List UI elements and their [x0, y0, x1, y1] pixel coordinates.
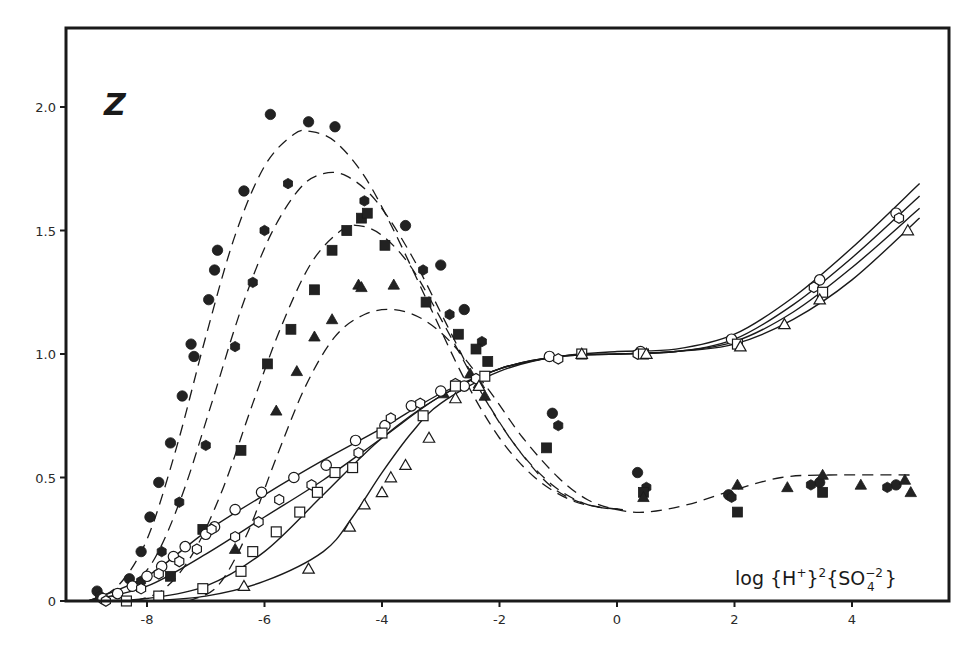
- marker-open-square: [480, 371, 490, 381]
- chart-canvas: -8-6-4-2024 00.51.01.52.0 Z log {H+}2{SO…: [0, 0, 975, 652]
- marker-filled-circle: [400, 220, 410, 230]
- marker-open-hexagon: [154, 569, 163, 579]
- x-tick-label: -6: [258, 612, 271, 627]
- marker-open-hexagon: [416, 398, 425, 408]
- marker-filled-square: [262, 359, 272, 369]
- marker-filled-square: [342, 226, 352, 236]
- x-tick-label: 2: [730, 612, 738, 627]
- marker-open-hexagon: [275, 495, 284, 505]
- marker-filled-square: [818, 487, 828, 497]
- marker-filled-hexagon: [201, 440, 210, 450]
- x-tick-label: 4: [848, 612, 856, 627]
- marker-filled-circle: [189, 351, 199, 361]
- marker-filled-hexagon: [445, 309, 454, 319]
- y-tick-label: 0.5: [35, 471, 56, 486]
- marker-open-square: [418, 411, 428, 421]
- marker-open-circle: [180, 541, 190, 551]
- marker-filled-square: [483, 356, 493, 366]
- marker-open-circle: [544, 351, 554, 361]
- marker-filled-hexagon: [248, 277, 257, 287]
- marker-filled-hexagon: [360, 196, 369, 206]
- marker-filled-hexagon: [231, 341, 240, 351]
- marker-filled-square: [380, 240, 390, 250]
- marker-filled-circle: [212, 245, 222, 255]
- marker-open-hexagon: [175, 556, 184, 566]
- marker-filled-circle: [239, 186, 249, 196]
- marker-filled-hexagon: [175, 497, 184, 507]
- marker-open-square: [312, 487, 322, 497]
- marker-filled-circle: [436, 260, 446, 270]
- marker-filled-circle: [145, 512, 155, 522]
- marker-filled-square: [732, 507, 742, 517]
- marker-open-hexagon: [386, 413, 395, 423]
- marker-open-hexagon: [137, 583, 146, 594]
- x-tick-label: -4: [376, 612, 389, 627]
- x-label-sup-plus: +: [796, 566, 806, 580]
- marker-open-square: [330, 468, 340, 478]
- marker-open-hexagon: [554, 354, 563, 364]
- marker-open-hexagon: [192, 544, 201, 554]
- marker-filled-square: [471, 344, 481, 354]
- marker-open-square: [198, 584, 208, 594]
- marker-open-hexagon: [254, 517, 263, 527]
- y-tick-label: 1.5: [35, 224, 56, 239]
- x-label-close: }: [885, 567, 897, 589]
- marker-open-square: [236, 566, 246, 576]
- y-tick-label: 0: [48, 594, 56, 609]
- y-tick-label: 2.0: [35, 100, 56, 115]
- x-label-mid: }: [806, 567, 818, 589]
- x-label-prefix: log {H: [735, 567, 796, 589]
- x-tick-label: 0: [613, 612, 621, 627]
- marker-open-square: [348, 463, 358, 473]
- marker-filled-square: [421, 297, 431, 307]
- marker-open-circle: [256, 487, 266, 497]
- marker-filled-hexagon: [806, 480, 815, 490]
- marker-filled-square: [166, 571, 176, 581]
- marker-open-square: [271, 527, 281, 537]
- x-label-open: {SO: [826, 567, 865, 589]
- marker-filled-hexagon: [883, 482, 892, 492]
- marker-filled-circle: [632, 467, 642, 477]
- marker-filled-circle: [459, 304, 469, 314]
- marker-open-circle: [289, 472, 299, 482]
- marker-filled-circle: [165, 438, 175, 448]
- marker-open-square: [377, 428, 387, 438]
- marker-open-circle: [436, 386, 446, 396]
- marker-filled-circle: [177, 391, 187, 401]
- y-axis-label: Z: [103, 87, 127, 122]
- x-tick-label: -2: [493, 612, 506, 627]
- marker-open-hexagon: [207, 524, 216, 534]
- marker-filled-square: [362, 208, 372, 218]
- marker-filled-hexagon: [157, 546, 166, 556]
- marker-open-circle: [230, 504, 240, 514]
- marker-filled-square: [453, 329, 463, 339]
- marker-filled-square: [286, 324, 296, 334]
- marker-filled-square: [236, 445, 246, 455]
- marker-filled-circle: [330, 122, 340, 132]
- marker-filled-hexagon: [554, 420, 563, 430]
- marker-open-circle: [350, 435, 360, 445]
- marker-open-hexagon: [231, 532, 240, 542]
- marker-filled-hexagon: [284, 178, 293, 188]
- marker-filled-circle: [209, 265, 219, 275]
- marker-filled-square: [309, 285, 319, 295]
- marker-filled-square: [542, 443, 552, 453]
- marker-filled-hexagon: [419, 265, 428, 275]
- marker-filled-circle: [203, 294, 213, 304]
- marker-open-hexagon: [809, 282, 818, 292]
- marker-open-hexagon: [354, 448, 363, 458]
- x-label-sup-minus2: −2: [865, 566, 883, 580]
- marker-filled-circle: [154, 477, 164, 487]
- marker-open-square: [295, 507, 305, 517]
- marker-filled-hexagon: [260, 225, 269, 235]
- marker-filled-circle: [547, 408, 557, 418]
- marker-filled-hexagon: [727, 492, 736, 502]
- marker-open-circle: [406, 401, 416, 411]
- y-tick-label: 1.0: [35, 347, 56, 362]
- marker-open-circle: [127, 581, 137, 591]
- marker-filled-circle: [186, 339, 196, 349]
- x-label-sup-2: 2: [819, 566, 827, 580]
- marker-filled-circle: [303, 117, 313, 127]
- marker-open-circle: [142, 571, 152, 581]
- x-label-sub-4: 4: [867, 580, 875, 594]
